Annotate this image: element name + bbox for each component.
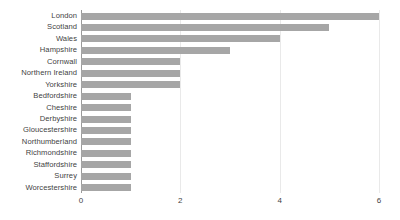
category-label: Derbyshire [0,113,77,124]
category-label: Northern Ireland [0,67,77,78]
bar [81,104,131,111]
category-label: Surrey [0,170,77,181]
bar [81,24,329,31]
y-axis-category-labels: LondonScotlandWalesHampshireCornwallNort… [0,10,77,193]
category-label: London [0,10,77,21]
category-label: Staffordshire [0,159,77,170]
x-tick-label: 2 [178,196,182,205]
bar-row [81,10,379,21]
bar-series [81,10,379,193]
bar [81,35,280,42]
bar-row [81,113,379,124]
bar [81,173,131,180]
category-label: Northumberland [0,136,77,147]
bar [81,93,131,100]
bar [81,116,131,123]
bar [81,161,131,168]
category-label: Yorkshire [0,79,77,90]
category-label: Hampshire [0,44,77,55]
bar [81,13,379,20]
category-label: Worcestershire [0,182,77,193]
bar [81,184,131,191]
bar-row [81,44,379,55]
bar [81,81,180,88]
bar-chart: LondonScotlandWalesHampshireCornwallNort… [0,0,400,220]
bar-row [81,33,379,44]
x-axis-tick-labels: 0246 [0,196,400,210]
category-label: Bedfordshire [0,90,77,101]
bar-row [81,182,379,193]
plot-area [81,10,379,193]
category-label: Scotland [0,21,77,32]
bar [81,47,230,54]
bar [81,70,180,77]
bar-row [81,102,379,113]
bar-row [81,170,379,181]
category-label: Wales [0,33,77,44]
bar-row [81,90,379,101]
bar-row [81,56,379,67]
bar-row [81,67,379,78]
bar-row [81,147,379,158]
category-label: Cheshire [0,102,77,113]
x-tick-label: 4 [277,196,281,205]
gridline [379,10,380,193]
bar [81,138,131,145]
bar [81,150,131,157]
x-tick-label: 0 [79,196,83,205]
bar-row [81,124,379,135]
x-tick-label: 6 [377,196,381,205]
category-label: Gloucestershire [0,124,77,135]
bar [81,127,131,134]
category-label: Richmondshire [0,147,77,158]
bar-row [81,136,379,147]
bar-row [81,21,379,32]
bar-row [81,79,379,90]
bar [81,58,180,65]
bar-row [81,159,379,170]
category-label: Cornwall [0,56,77,67]
